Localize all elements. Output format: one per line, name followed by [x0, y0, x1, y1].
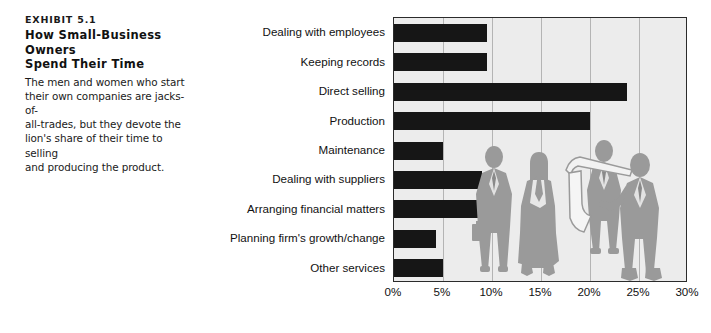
bar — [394, 200, 482, 218]
silhouette-woman-documents — [518, 152, 559, 276]
category-label: Arranging financial matters — [196, 202, 385, 215]
axis-tick-label: 15% — [528, 285, 551, 298]
exhibit-figure: EXHIBIT 5.1 How Small-Business Owners Sp… — [0, 0, 711, 333]
gridline-15 — [541, 18, 542, 281]
category-label: Production — [196, 114, 385, 127]
silhouette-man-blueprint — [566, 140, 632, 254]
category-label: Direct selling — [196, 84, 385, 97]
axis-tick-label: 0% — [385, 285, 402, 298]
plot-area — [393, 17, 687, 282]
category-label: Other services — [196, 261, 385, 274]
gridline-20 — [590, 18, 591, 281]
bar — [394, 230, 436, 248]
axis-tick-label: 10% — [479, 285, 502, 298]
bar — [394, 53, 487, 71]
bar — [394, 24, 487, 42]
category-label: Maintenance — [196, 143, 385, 156]
axis-tick-label: 30% — [675, 285, 698, 298]
gridline-10 — [492, 18, 493, 281]
bar-chart: Dealing with employeesKeeping recordsDir… — [0, 0, 711, 333]
axis-tick-label: 5% — [434, 285, 451, 298]
category-axis-labels: Dealing with employeesKeeping recordsDir… — [196, 17, 385, 282]
bar — [394, 171, 482, 189]
silhouette-man-pointing — [599, 153, 662, 281]
gridline-25 — [639, 18, 640, 281]
value-axis-labels: 0%5%10%15%20%25%30% — [393, 285, 687, 301]
category-label: Keeping records — [196, 55, 385, 68]
bar — [394, 142, 443, 160]
category-label: Dealing with employees — [196, 25, 385, 38]
axis-tick-label: 25% — [626, 285, 649, 298]
category-label: Planning firm's growth/change — [196, 231, 385, 244]
bar — [394, 83, 627, 101]
bar — [394, 259, 443, 277]
bar — [394, 112, 590, 130]
axis-tick-label: 20% — [577, 285, 600, 298]
category-label: Dealing with suppliers — [196, 172, 385, 185]
